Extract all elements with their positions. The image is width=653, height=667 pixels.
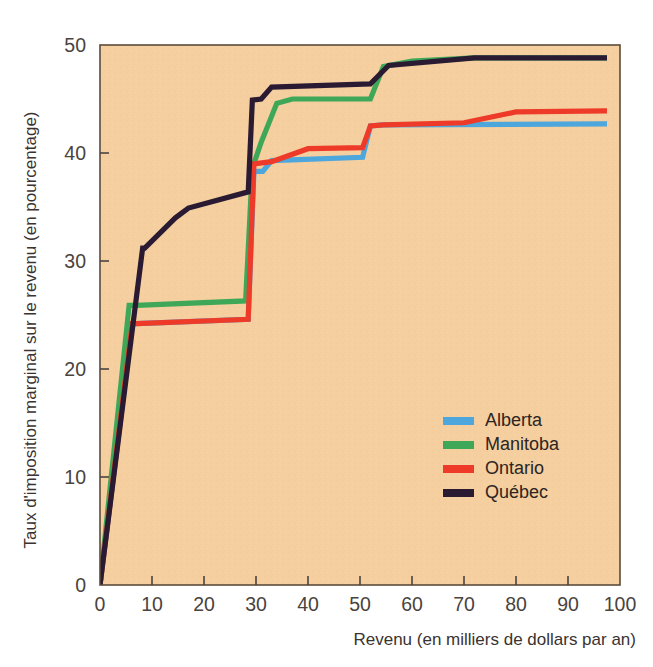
legend-label: Ontario (485, 458, 544, 478)
y-tick-label: 50 (64, 34, 86, 56)
x-tick-label: 10 (141, 593, 163, 615)
x-tick-label: 90 (557, 593, 579, 615)
legend-swatch (443, 417, 474, 425)
legend-swatch (443, 465, 474, 473)
x-tick-label: 80 (505, 593, 527, 615)
x-tick-label: 0 (95, 593, 106, 615)
legend-label: Québec (485, 482, 548, 502)
tax-rate-line-chart: 0102030405060708090100 01020304050 Reven… (0, 0, 653, 667)
x-tick-label: 50 (349, 593, 371, 615)
x-tick-label: 70 (453, 593, 475, 615)
y-tick-label: 40 (64, 142, 86, 164)
y-tick-label: 10 (64, 466, 86, 488)
legend-swatch (443, 441, 474, 449)
y-axis-title: Taux d'imposition marginal sur le revenu… (21, 112, 40, 549)
legend-swatch (443, 489, 474, 497)
x-tick-label: 20 (193, 593, 215, 615)
x-tick-label: 30 (245, 593, 267, 615)
legend-label: Manitoba (485, 434, 560, 454)
x-axis-title: Revenu (en milliers de dollars par an) (353, 630, 636, 649)
y-tick-label: 20 (64, 358, 86, 380)
chart-figure: 0102030405060708090100 01020304050 Reven… (0, 0, 653, 667)
legend-label: Alberta (485, 410, 543, 430)
y-tick-label: 30 (64, 250, 86, 272)
x-tick-label: 100 (604, 593, 637, 615)
x-tick-label: 40 (297, 593, 319, 615)
x-tick-label: 60 (401, 593, 423, 615)
y-tick-label: 0 (75, 574, 86, 596)
